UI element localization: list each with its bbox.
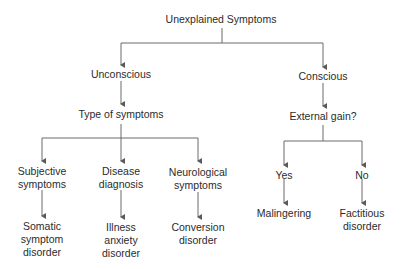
conversion-disorder-node: Conversion disorder: [171, 221, 224, 247]
subjective-symptoms-node: Subjective symptoms: [18, 165, 66, 191]
neurological-symptoms-node: Neurological symptoms: [169, 166, 227, 192]
factitious-disorder-node: Factitious disorder: [340, 207, 385, 233]
illness-anxiety-disorder-node: Illness anxiety disorder: [102, 221, 140, 260]
no-node: No: [355, 169, 368, 182]
somatic-symptom-disorder-node: Somatic symptom disorder: [21, 220, 64, 259]
root-node: Unexplained Symptoms: [166, 13, 277, 26]
yes-node: Yes: [275, 169, 292, 182]
decision-tree-diagram: Unexplained Symptoms Unconscious Conscio…: [0, 0, 402, 269]
conscious-node: Conscious: [298, 70, 347, 83]
malingering-node: Malingering: [257, 207, 311, 220]
external-gain-node: External gain?: [289, 110, 356, 123]
type-of-symptoms-node: Type of symptoms: [78, 108, 163, 121]
disease-diagnosis-node: Disease diagnosis: [99, 165, 143, 191]
unconscious-node: Unconscious: [91, 68, 151, 81]
